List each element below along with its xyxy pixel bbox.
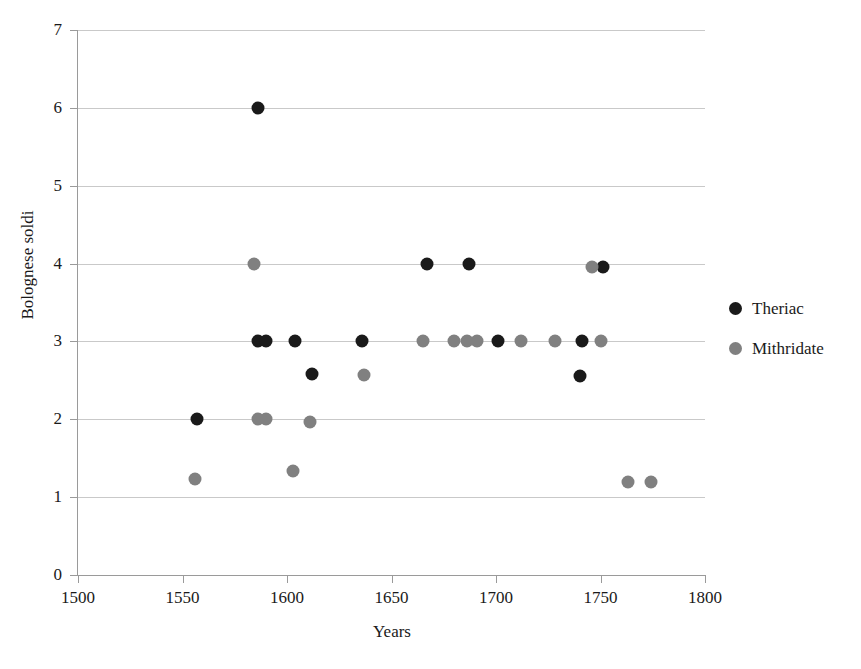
y-tick-6 (70, 108, 78, 109)
gridline-y-4 (78, 264, 705, 265)
x-tick-1700 (496, 575, 497, 583)
data-point-mithridate (548, 335, 561, 348)
y-tick-0 (70, 575, 78, 576)
x-tick-1750 (601, 575, 602, 583)
chart-legend: TheriacMithridate (729, 295, 859, 375)
data-point-mithridate (358, 368, 371, 381)
y-tick-3 (70, 341, 78, 342)
x-tick-1650 (392, 575, 393, 583)
y-tick-label-6: 6 (22, 99, 62, 116)
y-tick-label-1: 1 (22, 488, 62, 505)
y-axis-line (77, 30, 78, 576)
data-point-theriac (289, 335, 302, 348)
x-tick-label-1700: 1700 (461, 588, 531, 607)
data-point-mithridate (471, 335, 484, 348)
x-tick-label-1500: 1500 (43, 588, 113, 607)
legend-label: Mithridate (752, 335, 824, 362)
data-point-mithridate (644, 476, 657, 489)
legend-marker-icon-mithridate (729, 342, 742, 355)
data-point-theriac (462, 257, 475, 270)
x-tick-label-1650: 1650 (357, 588, 427, 607)
plot-area (78, 30, 705, 575)
data-point-mithridate (448, 335, 461, 348)
y-tick-1 (70, 497, 78, 498)
gridline-y-1 (78, 497, 705, 498)
data-point-mithridate (247, 257, 260, 270)
y-tick-5 (70, 186, 78, 187)
data-point-theriac (306, 368, 319, 381)
data-point-theriac (251, 101, 264, 114)
y-tick-label-2: 2 (22, 410, 62, 427)
legend-item-mithridate: Mithridate (729, 335, 859, 375)
data-point-theriac (260, 335, 273, 348)
data-point-mithridate (515, 335, 528, 348)
data-point-mithridate (303, 415, 316, 428)
data-point-mithridate (287, 465, 300, 478)
data-point-mithridate (621, 476, 634, 489)
x-axis-title: Years (78, 622, 706, 642)
y-tick-7 (70, 30, 78, 31)
data-point-theriac (573, 370, 586, 383)
x-tick-1600 (287, 575, 288, 583)
gridline-y-6 (78, 108, 705, 109)
y-tick-4 (70, 264, 78, 265)
data-point-mithridate (586, 261, 599, 274)
x-tick-1800 (705, 575, 706, 583)
data-point-theriac (356, 335, 369, 348)
data-point-mithridate (189, 473, 202, 486)
x-tick-label-1800: 1800 (670, 588, 740, 607)
data-point-mithridate (260, 413, 273, 426)
data-point-theriac (575, 335, 588, 348)
legend-label: Theriac (752, 295, 804, 322)
data-point-theriac (191, 413, 204, 426)
x-tick-1550 (183, 575, 184, 583)
gridline-y-2 (78, 419, 705, 420)
x-tick-label-1550: 1550 (148, 588, 218, 607)
x-tick-label-1600: 1600 (252, 588, 322, 607)
x-tick-1500 (78, 575, 79, 583)
y-tick-2 (70, 419, 78, 420)
y-tick-label-7: 7 (22, 21, 62, 38)
gridline-y-3 (78, 341, 705, 342)
data-point-theriac (492, 335, 505, 348)
scatter-chart-figure: 01234567 1500155016001650170017501800 Bo… (0, 0, 861, 669)
x-tick-label-1750: 1750 (566, 588, 636, 607)
legend-item-theriac: Theriac (729, 295, 859, 335)
gridline-y-5 (78, 186, 705, 187)
data-point-mithridate (416, 335, 429, 348)
gridline-y-7 (78, 30, 705, 31)
y-axis-title: Bolognese soldi (18, 135, 38, 395)
legend-marker-icon-theriac (729, 302, 742, 315)
data-point-mithridate (594, 335, 607, 348)
y-tick-label-0: 0 (22, 566, 62, 583)
data-point-theriac (421, 257, 434, 270)
